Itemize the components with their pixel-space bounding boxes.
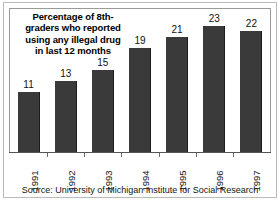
x-axis-label: 1992: [47, 157, 84, 185]
bar-value-label: 11: [23, 79, 33, 90]
bar-value-label: 23: [209, 13, 220, 24]
bar: [55, 81, 77, 153]
bar-slot: 21: [159, 9, 196, 153]
x-axis-label: 1991: [10, 157, 47, 185]
chart-figure: Percentage of 8th- graders who reported …: [0, 0, 280, 200]
bar-value-label: 19: [134, 35, 145, 46]
bar: [240, 31, 262, 153]
bar-slot: 11: [10, 9, 47, 153]
bar: [129, 48, 151, 153]
x-axis-labels: 1991199219931994199519961997: [10, 157, 270, 185]
bars-container: 11131519212322: [10, 9, 270, 153]
bar-value-label: 13: [60, 68, 71, 79]
bar-value-label: 15: [97, 57, 108, 68]
bar: [92, 70, 114, 153]
bar-value-label: 21: [172, 24, 183, 35]
bar-slot: 23: [196, 9, 233, 153]
x-axis-label: 1994: [121, 157, 158, 185]
bar-slot: 13: [47, 9, 84, 153]
x-axis-label: 1995: [159, 157, 196, 185]
x-axis-label: 1993: [84, 157, 121, 185]
source-note: Source: University of Michigan Institute…: [0, 185, 280, 195]
bar: [203, 26, 225, 153]
bar-slot: 22: [233, 9, 270, 153]
bar-value-label: 22: [246, 18, 257, 29]
bar: [166, 37, 188, 153]
x-axis-line: [9, 152, 271, 153]
x-axis-label: 1996: [196, 157, 233, 185]
x-axis-label: 1997: [233, 157, 270, 185]
bar: [18, 92, 40, 153]
bar-slot: 15: [84, 9, 121, 153]
bar-slot: 19: [121, 9, 158, 153]
